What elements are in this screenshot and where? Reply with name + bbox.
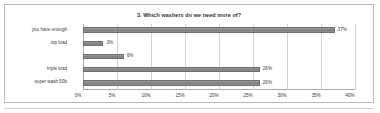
category-label: triple load xyxy=(0,65,67,73)
x-tick-label: 0% xyxy=(66,92,90,100)
bar-value-label: 6% xyxy=(127,52,134,60)
plot-area: 37%3%6%26%26% xyxy=(83,24,355,90)
x-tick-label: 40% xyxy=(338,92,362,100)
bar xyxy=(83,27,335,32)
chart-title: 3. Which washers do we need more of? xyxy=(5,12,373,19)
page-separator-rule xyxy=(4,108,374,109)
x-tick-label: 10% xyxy=(134,92,158,100)
category-label: top load xyxy=(0,39,67,47)
bar-value-label: 37% xyxy=(338,26,347,34)
bar-value-label: 26% xyxy=(263,65,272,73)
category-label: super wash 50b xyxy=(0,78,67,86)
bar-row: 3% xyxy=(83,37,355,50)
x-tick-label: 20% xyxy=(202,92,226,100)
bar-value-label: 26% xyxy=(263,79,272,87)
gridline xyxy=(355,24,356,90)
bar xyxy=(83,80,260,85)
category-label: you have enough xyxy=(0,26,67,34)
bar-row: 26% xyxy=(83,77,355,90)
bar-row: 37% xyxy=(83,24,355,37)
bar-row: 26% xyxy=(83,64,355,77)
x-tick-label: 15% xyxy=(168,92,192,100)
chart-frame: 3. Which washers do we need more of? 37%… xyxy=(4,4,374,103)
bar xyxy=(83,41,103,46)
bar-row: 6% xyxy=(83,50,355,63)
bar xyxy=(83,67,260,72)
bar-value-label: 3% xyxy=(106,39,113,47)
x-tick-label: 5% xyxy=(100,92,124,100)
screenshot-root: 3. Which washers do we need more of? 37%… xyxy=(0,0,380,113)
x-tick-label: 25% xyxy=(236,92,260,100)
x-tick-label: 30% xyxy=(270,92,294,100)
bar xyxy=(83,54,124,59)
x-tick-label: 35% xyxy=(304,92,328,100)
